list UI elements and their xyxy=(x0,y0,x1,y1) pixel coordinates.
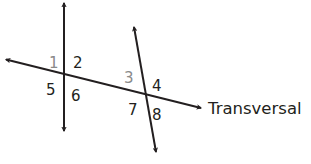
angle-label-5: 5 xyxy=(46,81,56,99)
transversal-diagram: 12345678 Transversal xyxy=(0,0,311,164)
angle-label-1: 1 xyxy=(49,54,59,72)
lines-layer xyxy=(6,3,201,152)
transversal xyxy=(6,60,201,109)
angle-label-3: 3 xyxy=(124,69,134,87)
angle-label-4: 4 xyxy=(152,77,162,95)
angle-label-7: 7 xyxy=(128,101,138,119)
angle-label-2: 2 xyxy=(73,54,83,72)
transversal-label: Transversal xyxy=(207,99,302,118)
angle-label-8: 8 xyxy=(152,106,162,124)
angle-label-6: 6 xyxy=(71,87,81,105)
